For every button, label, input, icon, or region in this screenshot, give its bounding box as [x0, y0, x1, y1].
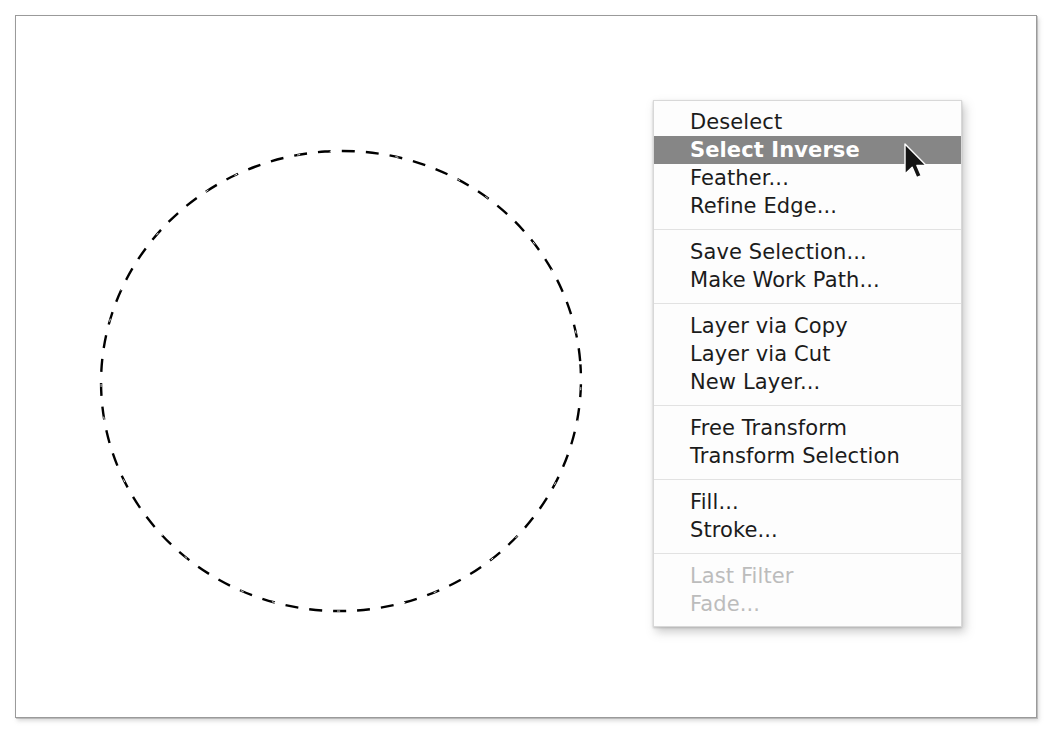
selection-context-menu[interactable]: Deselect Select Inverse Feather... Refin…	[653, 100, 962, 627]
menu-separator-1	[654, 229, 961, 230]
menu-item-fill[interactable]: Fill...	[654, 488, 961, 516]
menu-separator-2	[654, 303, 961, 304]
menu-item-new-layer[interactable]: New Layer...	[654, 368, 961, 396]
menu-item-fade: Fade...	[654, 590, 961, 618]
menu-item-free-transform[interactable]: Free Transform	[654, 414, 961, 442]
menu-item-last-filter: Last Filter	[654, 562, 961, 590]
menu-item-deselect[interactable]: Deselect	[654, 108, 961, 136]
menu-group-save: Save Selection... Make Work Path...	[654, 238, 961, 294]
menu-item-feather[interactable]: Feather...	[654, 164, 961, 192]
menu-item-layer-via-copy[interactable]: Layer via Copy	[654, 312, 961, 340]
menu-group-layer: Layer via Copy Layer via Cut New Layer..…	[654, 312, 961, 396]
menu-separator-5	[654, 553, 961, 554]
menu-item-stroke[interactable]: Stroke...	[654, 516, 961, 544]
elliptical-marquee-selection-overlay	[86, 135, 597, 627]
menu-item-layer-via-cut[interactable]: Layer via Cut	[654, 340, 961, 368]
menu-item-refine-edge[interactable]: Refine Edge...	[654, 192, 961, 220]
image-canvas-frame: Deselect Select Inverse Feather... Refin…	[15, 15, 1037, 718]
screenshot-page: Deselect Select Inverse Feather... Refin…	[0, 0, 1053, 740]
menu-item-make-work-path[interactable]: Make Work Path...	[654, 266, 961, 294]
menu-item-select-inverse[interactable]: Select Inverse	[654, 136, 961, 164]
menu-group-selection: Deselect Select Inverse Feather... Refin…	[654, 108, 961, 220]
menu-separator-3	[654, 405, 961, 406]
menu-group-filter: Last Filter Fade...	[654, 562, 961, 618]
menu-group-fill-stroke: Fill... Stroke...	[654, 488, 961, 544]
menu-item-transform-selection[interactable]: Transform Selection	[654, 442, 961, 470]
elliptical-marquee-selection	[86, 135, 597, 627]
menu-separator-4	[654, 479, 961, 480]
menu-item-save-selection[interactable]: Save Selection...	[654, 238, 961, 266]
menu-group-transform: Free Transform Transform Selection	[654, 414, 961, 470]
